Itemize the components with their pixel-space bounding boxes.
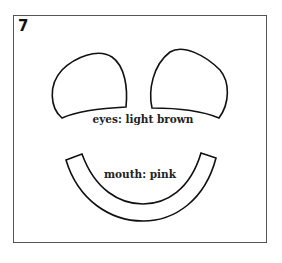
mouth-shape xyxy=(66,153,216,221)
mouth-color-label: mouth: pink xyxy=(104,168,176,180)
right-eye-shape xyxy=(151,49,228,118)
left-eye-shape xyxy=(52,53,126,118)
face-template-shapes xyxy=(0,0,282,263)
eyes-color-label: eyes: light brown xyxy=(93,113,194,125)
